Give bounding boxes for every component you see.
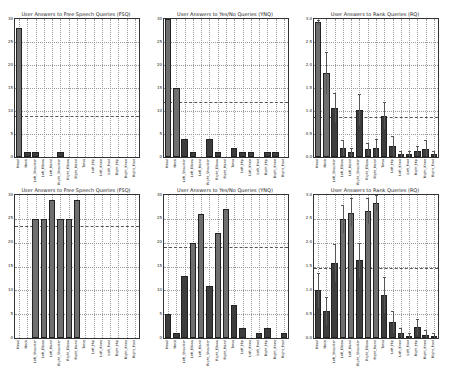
gridline-vertical: [36, 19, 37, 157]
x-tick-label: Torso: [231, 159, 235, 185]
error-bar-cap: [366, 198, 369, 199]
x-tick-label: Torso: [82, 340, 86, 366]
gridline-vertical: [267, 19, 268, 157]
bar-right-knee: [272, 152, 278, 157]
bar-head: [165, 314, 171, 338]
bar-right-hand: [223, 209, 229, 338]
y-tick-label: 0: [148, 154, 162, 159]
gridline-vertical: [434, 195, 435, 338]
bar-right-shoulder: [57, 152, 63, 157]
x-tick-label: Left_Shoulder: [33, 340, 37, 366]
gridline-vertical: [60, 19, 61, 157]
y-tick-label: 20: [0, 62, 13, 67]
error-bar-cap: [375, 195, 378, 196]
gridline-vertical: [434, 19, 435, 157]
gridline-vertical: [276, 19, 277, 157]
chart-panel-5: User Answers to Yes/No Queries (YNQ)0510…: [149, 186, 293, 369]
error-bar: [393, 136, 394, 157]
y-tick-label: 5: [0, 311, 13, 316]
error-bar: [384, 102, 385, 130]
y-tick-label: 25: [148, 215, 162, 220]
chart-panel-1: User Answers to Free Speech Queries (FSQ…: [0, 10, 144, 188]
y-tick-label: 10: [0, 287, 13, 292]
x-tick-label: Right_Shoulder: [356, 159, 360, 185]
bar-left-elbow: [41, 219, 47, 338]
x-tick-label: Left_Foot: [256, 340, 260, 366]
bar-left-hand: [348, 213, 354, 338]
gridline-vertical: [118, 195, 119, 338]
x-tick-label: Right_Hand: [74, 159, 78, 185]
x-tick-label: Right_Foot: [281, 159, 285, 185]
x-tick-label: Left_Elbow: [41, 340, 45, 366]
gridline-vertical: [351, 19, 352, 157]
x-tick-label: Left_Hand: [348, 159, 352, 185]
bar-left-foot: [256, 333, 262, 338]
x-tick-label: Left_Elbow: [340, 159, 344, 185]
bar-right-elbow: [365, 211, 371, 338]
y-tick-label: 20: [0, 239, 13, 244]
x-tick-label: Torso: [82, 159, 86, 185]
x-tick-label: Left_Knee: [398, 340, 402, 366]
x-tick-label: Left_Hand: [198, 340, 202, 366]
x-tick-label: Left_Shoulder: [182, 159, 186, 185]
x-tick-label: Right_Hand: [223, 159, 227, 185]
error-bar-cap: [399, 151, 402, 152]
x-tick-label: Right_Elbow: [365, 340, 369, 366]
error-bar: [359, 94, 360, 124]
y-tick-label: 1.0: [298, 108, 312, 113]
error-bar-cap: [317, 273, 320, 274]
x-tick-label: Torso: [381, 340, 385, 366]
bar-right-elbow: [66, 219, 72, 338]
gridline-vertical: [409, 19, 410, 157]
error-bar-cap: [358, 94, 361, 95]
bar-right-foot: [281, 333, 287, 338]
chart-panel-2: User Answers to Yes/No Queries (YNQ)0510…: [149, 10, 293, 188]
bar-left-elbow: [190, 152, 196, 157]
x-tick-label: Left_Knee: [248, 340, 252, 366]
gridline-vertical: [85, 19, 86, 157]
y-tick-label: 10: [0, 108, 13, 113]
error-bar-cap: [432, 333, 435, 334]
x-tick-label: Left_Foot: [406, 340, 410, 366]
gridline-vertical: [27, 195, 28, 338]
error-bar-cap: [383, 277, 386, 278]
y-tick-label: 30: [0, 192, 13, 197]
x-tick-label: Right_Elbow: [365, 159, 369, 185]
bar-head: [315, 22, 321, 157]
y-tick-label: 10: [148, 108, 162, 113]
x-tick-label: Left_Knee: [248, 159, 252, 185]
y-tick-label: 10: [148, 287, 162, 292]
gridline-vertical: [284, 19, 285, 157]
x-tick-label: Left_Hip: [390, 340, 394, 366]
bar-neck: [24, 152, 30, 157]
x-tick-label: Left_Shoulder: [182, 340, 186, 366]
error-bar-cap: [399, 328, 402, 329]
error-bar-cap: [341, 205, 344, 206]
gridline-vertical: [368, 19, 369, 157]
bar-neck: [173, 88, 179, 157]
x-tick-label: Neck: [24, 340, 28, 366]
gridline-vertical: [251, 195, 252, 338]
x-tick-label: Left_Hip: [240, 340, 244, 366]
x-tick-label: Left_Knee: [398, 159, 402, 185]
gridline-vertical: [69, 19, 70, 157]
bar-right-hand: [373, 203, 379, 338]
y-tick-label: 30: [148, 192, 162, 197]
x-tick-label: Right_Foot: [132, 340, 136, 366]
y-tick-label: 1.5: [298, 263, 312, 268]
y-tick-label: 1.5: [298, 85, 312, 90]
x-tick-label: Right_Foot: [431, 340, 435, 366]
error-bar: [318, 273, 319, 308]
bar-left-shoulder: [181, 276, 187, 338]
x-tick-label: Left_Knee: [99, 159, 103, 185]
gridline-vertical: [85, 195, 86, 338]
bar-right-shoulder: [57, 219, 63, 338]
x-tick-label: Right_Hip: [414, 340, 418, 366]
gridline-vertical: [401, 195, 402, 338]
gridline-vertical: [19, 195, 20, 338]
x-tick-label: Left_Hand: [198, 159, 202, 185]
bar-right-hip: [264, 152, 270, 157]
y-tick-label: 2.5: [298, 215, 312, 220]
x-tick-label: Right_Hip: [414, 159, 418, 185]
gridline-vertical: [135, 195, 136, 338]
